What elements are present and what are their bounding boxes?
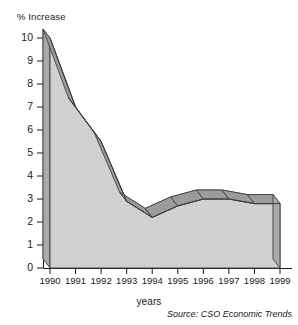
y-tick-label: 4 — [27, 169, 33, 181]
y-tick-label: 3 — [27, 192, 33, 204]
ribbon-right-cap — [273, 195, 280, 268]
y-tick-label: 9 — [27, 54, 33, 66]
chart-plot-area: 012345678910 199019911992199319941995199… — [0, 0, 298, 325]
y-tick-label: 7 — [27, 100, 33, 112]
x-tick-label: 1991 — [65, 275, 86, 286]
data-ribbon — [43, 29, 280, 268]
x-tick-label: 1996 — [193, 275, 214, 286]
ribbon-front-face — [50, 38, 280, 268]
chart-container: % Increase 012345678910 — [0, 0, 298, 325]
y-tick-label: 2 — [27, 215, 33, 227]
y-tick-label: 6 — [27, 123, 33, 135]
x-tick-label: 1995 — [167, 275, 188, 286]
y-tick-label: 8 — [27, 77, 33, 89]
y-tick-label: 0 — [27, 261, 33, 273]
x-tick-label: 1998 — [244, 275, 265, 286]
x-tick-label: 1990 — [39, 275, 60, 286]
x-tick-label: 1993 — [116, 275, 137, 286]
x-tick-label: 1992 — [91, 275, 112, 286]
y-axis-ticks: 012345678910 — [21, 31, 43, 273]
x-tick-label: 1999 — [269, 275, 290, 286]
x-axis-ticks — [50, 269, 280, 275]
x-tick-label: 1994 — [142, 275, 163, 286]
y-tick-label: 10 — [21, 31, 33, 43]
ribbon-left-wall — [43, 29, 50, 268]
x-axis-tick-labels: 1990199119921993199419951996199719981999 — [39, 275, 290, 286]
x-tick-label: 1997 — [218, 275, 239, 286]
source-annotation: Source: CSO Economic Trends — [0, 309, 292, 319]
y-tick-label: 5 — [27, 146, 33, 158]
x-axis-title: years — [0, 296, 298, 307]
y-tick-label: 1 — [27, 238, 33, 250]
